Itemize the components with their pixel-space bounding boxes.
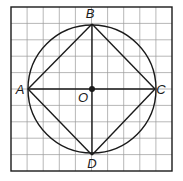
label-d: D [87, 156, 96, 171]
geometry-diagram: A B C D O [0, 0, 183, 181]
center-point-o [89, 86, 95, 92]
label-c: C [156, 82, 166, 97]
label-b: B [86, 6, 95, 21]
label-a: A [15, 82, 25, 97]
label-o: O [78, 90, 88, 105]
